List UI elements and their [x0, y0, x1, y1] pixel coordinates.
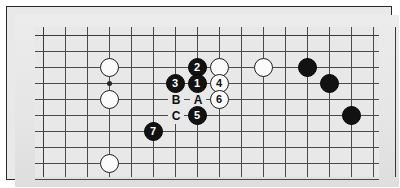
grid-line-vertical — [329, 27, 330, 177]
stone-white — [100, 90, 119, 109]
grid-line-vertical — [65, 27, 66, 177]
star-point — [107, 81, 112, 86]
stone-black — [298, 58, 317, 77]
grid-line-vertical — [153, 27, 154, 177]
stone-black — [320, 74, 339, 93]
stone-black-move-1: 1 — [188, 74, 207, 93]
stone-black-move-3: 3 — [166, 74, 185, 93]
grid-line-vertical — [285, 27, 286, 177]
stone-black-move-7: 7 — [144, 122, 163, 141]
grid-line-horizontal — [35, 35, 379, 36]
go-diagram-root: ABC2314657 — [0, 0, 400, 188]
grid-line-vertical — [351, 27, 352, 177]
grid-line-vertical — [373, 27, 374, 177]
stone-move-number: 4 — [216, 77, 222, 88]
grid-line-vertical — [131, 27, 132, 177]
grid-line-horizontal — [35, 99, 379, 100]
grid-line-horizontal — [35, 147, 379, 148]
stone-white-move-6: 6 — [210, 90, 229, 109]
grid-line-vertical — [263, 27, 264, 177]
grid-line-vertical — [87, 27, 88, 177]
stone-move-number: 2 — [194, 61, 200, 72]
grid-line-horizontal — [35, 131, 379, 132]
stone-move-number: 1 — [194, 77, 200, 88]
board-marker-c: C — [168, 108, 184, 124]
stone-move-number: 3 — [172, 77, 178, 88]
grid-line-vertical — [43, 27, 44, 177]
stone-white — [100, 58, 119, 77]
go-board-grid: ABC2314657 — [35, 27, 379, 177]
stone-move-number: 7 — [150, 125, 156, 136]
grid-line-horizontal — [35, 67, 379, 68]
figure-frame: ABC2314657 — [6, 6, 392, 180]
stone-white — [100, 154, 119, 173]
board-marker-b: B — [168, 92, 184, 108]
grid-line-horizontal — [35, 179, 379, 180]
grid-line-horizontal — [35, 115, 379, 116]
stone-white — [254, 58, 273, 77]
grid-line-vertical — [307, 27, 308, 177]
grid-line-horizontal — [35, 51, 379, 52]
stone-move-number: 5 — [194, 109, 200, 120]
stone-black-move-5: 5 — [188, 106, 207, 125]
grid-line-vertical — [395, 27, 396, 177]
stone-black — [342, 106, 361, 125]
grid-line-vertical — [241, 27, 242, 177]
stone-move-number: 6 — [216, 93, 222, 104]
grid-line-horizontal — [35, 163, 379, 164]
